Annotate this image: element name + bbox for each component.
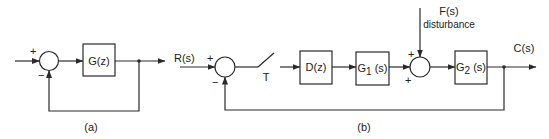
minus-sign-a: − [38,69,44,81]
sampler-switch-icon [258,53,274,67]
diagram-a: + − G(z) (a) [15,44,165,133]
summing-junction-b1 [215,57,235,77]
caption-b: (b) [357,121,370,133]
summing-junction-b2 [410,57,430,77]
disturbance-signal-label: F(s) [439,5,459,17]
plus-sign-b1: + [207,52,213,64]
minus-sign-b1: − [212,76,218,88]
plus-sign-b2-left: + [405,74,411,86]
block-gz-label: G(z) [88,55,109,67]
output-label-cs: C(s) [514,42,535,54]
plus-sign-a: + [30,45,36,57]
block-dz-label: D(z) [306,61,327,73]
diagram-b: R(s) + − T D(z) G1 (s) + + F(s) disturba… [174,5,536,133]
plus-sign-b2-top: + [408,48,414,60]
disturbance-text: disturbance [423,19,475,30]
block-diagrams: + − G(z) (a) R(s) + − T D(z) G1 (s) + + … [0,0,549,139]
caption-a: (a) [84,121,97,133]
summing-junction-a [40,52,59,71]
input-label-rs: R(s) [174,52,195,64]
sampler-label-t: T [263,71,270,83]
